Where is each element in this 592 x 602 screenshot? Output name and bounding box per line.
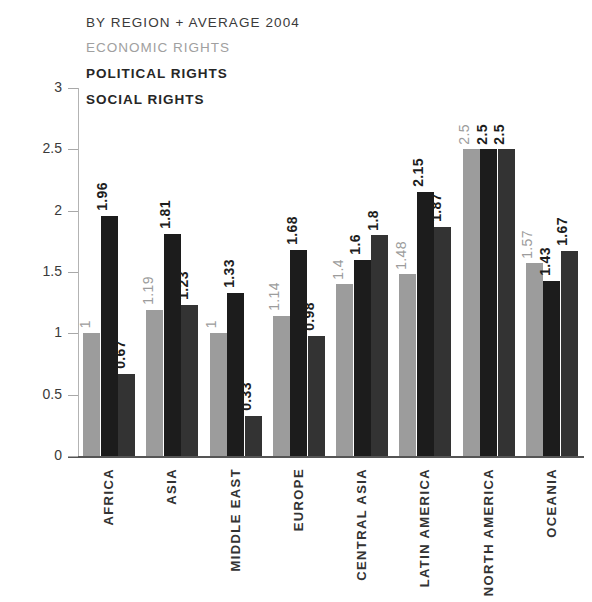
bar-value-label: 2.5: [457, 124, 471, 145]
bar-group: 1.571.431.67: [526, 88, 578, 456]
bar-economic-rights: [336, 284, 353, 456]
bar-economic-rights: [399, 274, 416, 456]
bar-political-rights: [290, 250, 307, 456]
x-axis-label: OCEANIA: [544, 468, 559, 538]
bar-value-label: 1.57: [520, 230, 534, 259]
bar-group: 1.191.811.23: [146, 88, 198, 456]
bar-group: 11.330.33: [210, 88, 262, 456]
y-axis-tick-label: 2.5: [0, 140, 62, 156]
bar-group: 1.141.680.98: [273, 88, 325, 456]
bar-political-rights: [227, 293, 244, 456]
bar-economic-rights: [526, 263, 543, 456]
x-axis-category-labels: AFRICAASIAMIDDLE EASTEUROPECENTRAL ASIAL…: [78, 468, 584, 598]
bar-value-label: 1.6: [348, 234, 362, 255]
bar-group: 1.41.61.8: [336, 88, 388, 456]
bar-social-rights: [181, 305, 198, 456]
x-axis-baseline: [68, 456, 584, 458]
bar-political-rights: [164, 234, 181, 456]
x-axis-label: CENTRAL ASIA: [354, 468, 369, 581]
y-axis-tick-label: 0: [0, 447, 62, 463]
y-axis-tick-label: 2: [0, 202, 62, 218]
bar-social-rights: [118, 374, 135, 456]
bar-value-label: 1.87: [429, 193, 443, 222]
y-axis-tick: [68, 456, 78, 457]
bar-economic-rights: [146, 310, 163, 456]
bar-social-rights: [498, 149, 515, 456]
chart-title: BY REGION + AVERAGE 2004: [86, 10, 516, 35]
bar-value-label: 1.23: [176, 271, 190, 300]
y-axis-tick: [68, 333, 78, 334]
bar-group: 11.960.67: [83, 88, 135, 456]
bar-value-label: 1.43: [538, 247, 552, 276]
bar-value-label: 0.67: [113, 340, 127, 369]
plot-area: 00.511.522.53 11.960.671.191.811.2311.33…: [78, 88, 584, 456]
y-axis-tick: [68, 149, 78, 150]
y-axis-tick: [68, 395, 78, 396]
bar-social-rights: [434, 227, 451, 456]
bar-social-rights: [561, 251, 578, 456]
y-axis-tick: [68, 272, 78, 273]
x-axis-label: NORTH AMERICA: [481, 468, 496, 596]
bar-value-label: 0.33: [239, 382, 253, 411]
bar-value-label: 1.19: [141, 276, 155, 305]
bar-value-label: 1.67: [555, 217, 569, 246]
bar-political-rights: [101, 216, 118, 456]
x-axis-label: EUROPE: [291, 468, 306, 531]
bar-social-rights: [308, 336, 325, 456]
bar-value-label: 1.96: [95, 182, 109, 211]
bar-value-label: 1.33: [222, 259, 236, 288]
bar-economic-rights: [463, 149, 480, 456]
x-axis-label: ASIA: [164, 468, 179, 505]
y-axis-tick: [68, 211, 78, 212]
bar-political-rights: [417, 192, 434, 456]
bar-value-label: 1: [204, 320, 218, 328]
y-axis-tick-label: 0.5: [0, 386, 62, 402]
bar-value-label: 1.4: [331, 259, 345, 280]
y-axis-line: [78, 88, 79, 457]
x-axis-label: MIDDLE EAST: [228, 468, 243, 572]
bar-social-rights: [245, 416, 262, 456]
bar-value-label: 1.8: [366, 210, 380, 231]
bar-value-label: 2.15: [411, 158, 425, 187]
bar-value-label: 2.5: [475, 124, 489, 145]
bar-political-rights: [543, 281, 560, 456]
bar-value-label: 1.68: [285, 216, 299, 245]
bar-group: 2.52.52.5: [463, 88, 515, 456]
bar-value-label: 2.5: [492, 124, 506, 145]
x-axis-label: LATIN AMERICA: [417, 468, 432, 587]
bar-chart: BY REGION + AVERAGE 2004 ECONOMIC RIGHTS…: [0, 0, 592, 602]
bar-value-label: 0.98: [302, 302, 316, 331]
x-axis-label: AFRICA: [101, 468, 116, 526]
y-axis-tick-label: 3: [0, 79, 62, 95]
y-axis-tick-label: 1: [0, 324, 62, 340]
bar-group: 1.482.151.87: [399, 88, 451, 456]
legend-item-political-rights: POLITICAL RIGHTS: [86, 61, 516, 87]
bar-value-label: 1.14: [267, 282, 281, 311]
bar-economic-rights: [210, 333, 227, 456]
bar-value-label: 1: [78, 320, 92, 328]
bar-political-rights: [480, 149, 497, 456]
legend-item-economic-rights: ECONOMIC RIGHTS: [86, 35, 516, 61]
bar-social-rights: [371, 235, 388, 456]
bar-political-rights: [354, 260, 371, 456]
bar-economic-rights: [83, 333, 100, 456]
bar-value-label: 1.81: [158, 200, 172, 229]
bar-value-label: 1.48: [394, 241, 408, 270]
y-axis-tick-label: 1.5: [0, 263, 62, 279]
y-axis-tick: [68, 88, 78, 89]
bar-economic-rights: [273, 316, 290, 456]
